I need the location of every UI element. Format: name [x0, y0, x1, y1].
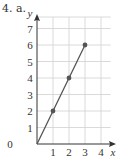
- x-tick-label: 4: [98, 146, 104, 158]
- x-tick-label: 2: [66, 146, 72, 158]
- y-tick-label: 6: [27, 39, 33, 51]
- x-tick-label: 1: [50, 146, 56, 158]
- x-tick-label: 3: [82, 146, 88, 158]
- data-point: [51, 109, 56, 114]
- y-tick-label: 3: [27, 89, 33, 101]
- line-chart: 123412345670xy: [0, 0, 121, 158]
- y-tick-label: 7: [27, 23, 33, 35]
- data-point: [67, 76, 72, 81]
- x-axis-label: x: [110, 146, 116, 158]
- origin-label: 0: [7, 138, 13, 150]
- data-point: [83, 43, 88, 48]
- y-tick-label: 4: [27, 72, 33, 84]
- y-tick-label: 1: [27, 122, 33, 134]
- y-tick-label: 5: [27, 56, 33, 68]
- y-axis-arrow-icon: [34, 14, 40, 21]
- y-tick-label: 2: [27, 105, 33, 117]
- y-axis-label: y: [27, 7, 33, 19]
